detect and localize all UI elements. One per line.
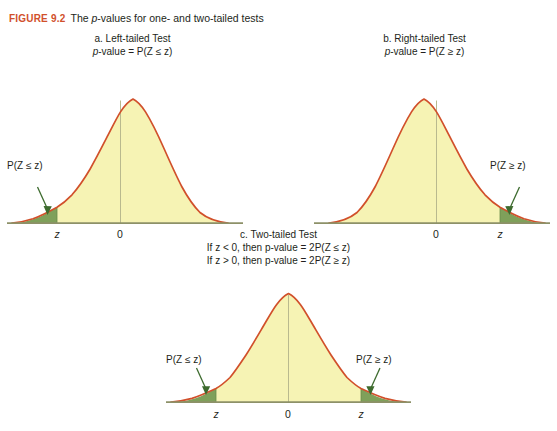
panel-left-tailed-title: a. Left-tailed Test p-value = P(Z ≤ z) xyxy=(0,32,265,58)
left-tail-probability-label: P(Z ≤ z) xyxy=(7,160,42,171)
panel-two-tailed-title: c. Two-tailed Test If z < 0, then p-valu… xyxy=(146,228,411,267)
two-tailed-normal-curve xyxy=(146,268,411,403)
caption-text-post: -values for one- and two-tailed tests xyxy=(97,12,263,24)
tick-label-z-right: z xyxy=(497,228,502,240)
panel-left-tailed-title-line1: a. Left-tailed Test xyxy=(95,33,171,44)
left-tailed-normal-curve xyxy=(0,59,265,224)
figure-container: FIGURE 9.2The p-values for one- and two-… xyxy=(0,0,557,431)
figure-caption: FIGURE 9.2The p-values for one- and two-… xyxy=(9,12,264,25)
panel-two-tailed-title-line2: If z < 0, then p-value = 2P(Z ≤ z) xyxy=(146,241,411,254)
tick-label-zero-two-tailed: 0 xyxy=(285,408,291,420)
left-tail-annotation-arrow xyxy=(38,187,48,209)
right-tail-probability-label: P(Z ≥ z) xyxy=(490,160,525,171)
panel-two-tailed: c. Two-tailed Test If z < 0, then p-valu… xyxy=(146,228,411,428)
right-tail-annotation-arrow xyxy=(371,368,381,389)
panel-right-tailed-title-line1: b. Right-tailed Test xyxy=(383,33,466,44)
right-tail-annotation-arrow xyxy=(510,187,520,209)
tick-label-zero-left: 0 xyxy=(117,228,123,240)
left-tail-annotation-arrow xyxy=(197,368,207,389)
two-tailed-right-probability-label: P(Z ≥ z) xyxy=(356,354,391,365)
two-tailed-left-probability-label: P(Z ≤ z) xyxy=(166,354,201,365)
left-tail-shaded-region xyxy=(12,207,57,223)
body-fill-area-right xyxy=(121,99,229,223)
panel-left-tailed: a. Left-tailed Test p-value = P(Z ≤ z) xyxy=(0,32,265,212)
right-tail-shaded-region xyxy=(361,389,406,403)
panel-right-tailed-title-line2: p-value = P(Z ≥ z) xyxy=(292,45,557,58)
caption-text-pre: The xyxy=(70,12,91,24)
figure-number: FIGURE 9.2 xyxy=(9,13,65,24)
panel-two-tailed-title-line1: c. Two-tailed Test xyxy=(240,229,317,240)
left-tail-shaded-region xyxy=(171,389,216,403)
panel-left-tailed-title-line2: p-value = P(Z ≤ z) xyxy=(0,45,265,58)
right-tailed-normal-curve xyxy=(292,59,557,224)
tick-label-z-left-two-tailed: z xyxy=(213,408,218,420)
right-tail-shaded-region xyxy=(500,207,545,223)
panel-left-tailed-plot xyxy=(0,59,265,224)
tick-label-zero-right: 0 xyxy=(433,228,439,240)
tick-label-z-left: z xyxy=(54,228,59,240)
body-fill-area-left xyxy=(329,99,437,223)
panel-right-tailed-title: b. Right-tailed Test p-value = P(Z ≥ z) xyxy=(292,32,557,58)
panel-two-tailed-plot xyxy=(146,268,411,403)
panel-two-tailed-title-line3: If z > 0, then p-value = 2P(Z ≥ z) xyxy=(146,254,411,267)
panel-right-tailed: b. Right-tailed Test p-value = P(Z ≥ z) xyxy=(292,32,557,212)
panel-right-tailed-plot xyxy=(292,59,557,224)
tick-label-z-right-two-tailed: z xyxy=(358,408,363,420)
